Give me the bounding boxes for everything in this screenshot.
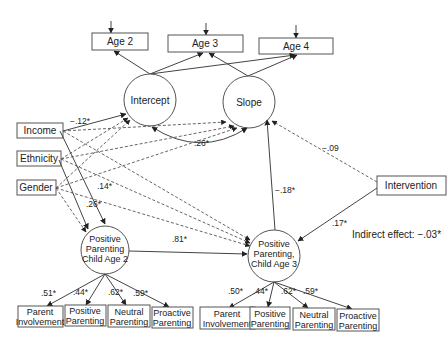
svg-text:.59*: .59* <box>133 288 149 298</box>
pp-age3-node: Positive Parenting, Child Age 3 <box>248 230 300 282</box>
svg-text:.81*: .81* <box>172 234 188 244</box>
svg-text:.62*: .62* <box>281 286 297 296</box>
svg-text:.51*: .51* <box>41 288 57 298</box>
svg-text:Parent: Parent <box>214 309 241 319</box>
income-box: Income <box>17 123 63 138</box>
svg-text:Intervention: Intervention <box>385 180 437 191</box>
svg-text:Parenting,: Parenting, <box>253 249 294 259</box>
svg-text:Proactive: Proactive <box>339 311 377 321</box>
gender-box: Gender <box>17 180 56 195</box>
intercept-node: Intercept <box>124 74 176 126</box>
path-pp2-pp3 <box>129 251 247 254</box>
indicators-age2: .51* .44* .62* .59* Parent Involvement P… <box>16 274 193 328</box>
svg-text:Involvement: Involvement <box>16 317 65 327</box>
intervention-box: Intervention <box>377 176 446 195</box>
svg-text:Parenting: Parenting <box>251 319 290 329</box>
svg-text:.62*: .62* <box>108 287 124 297</box>
path-intercept-age4 <box>150 55 295 74</box>
pp-age2-node: Positive Parenting Child Age 2 <box>81 226 129 274</box>
svg-text:Slope: Slope <box>236 97 262 108</box>
path-pp3-slope <box>267 120 275 230</box>
svg-text:Involvement: Involvement <box>203 319 252 329</box>
svg-text:Positive: Positive <box>89 234 121 244</box>
svg-text:Parent: Parent <box>27 307 54 317</box>
path-ethnicity-pp2 <box>59 160 88 229</box>
svg-text:Parenting: Parenting <box>153 318 192 328</box>
age3-box: Age 3 <box>168 35 243 52</box>
svg-text:Proactive: Proactive <box>153 308 191 318</box>
svg-text:.44*: .44* <box>253 286 269 296</box>
svg-text:.14*: .14* <box>97 181 113 191</box>
svg-text:Parenting: Parenting <box>339 321 378 331</box>
indirect-effect-label: Indirect effect: −.03* <box>352 229 441 240</box>
svg-text:Parenting: Parenting <box>295 320 334 330</box>
svg-text:Gender: Gender <box>19 182 53 193</box>
svg-text:Parenting: Parenting <box>110 317 149 327</box>
age4-box: Age 4 <box>259 38 333 54</box>
svg-text:Intercept: Intercept <box>131 95 170 106</box>
svg-text:−.09: −.09 <box>322 143 339 153</box>
indicators-age3: .50* .44* .62* .59* Parent Involvement P… <box>200 282 379 331</box>
svg-text:.17*: .17* <box>332 218 348 228</box>
svg-text:Age 2: Age 2 <box>107 36 134 47</box>
svg-text:Age 4: Age 4 <box>283 41 310 52</box>
svg-text:−.12*: −.12* <box>70 116 91 126</box>
age2-box: Age 2 <box>92 33 148 50</box>
svg-text:.26*: .26* <box>86 199 102 209</box>
svg-text:.50*: .50* <box>228 286 244 296</box>
svg-text:Neutral: Neutral <box>114 307 143 317</box>
svg-text:Parenting: Parenting <box>86 244 125 254</box>
svg-text:.44*: .44* <box>73 287 89 297</box>
path-intercept-age2 <box>114 51 150 74</box>
svg-text:−.18*: −.18* <box>275 185 296 195</box>
svg-text:Child Age 2: Child Age 2 <box>82 254 128 264</box>
svg-text:Parenting: Parenting <box>66 316 105 326</box>
svg-text:Income: Income <box>24 125 57 136</box>
sem-diagram: Age 2 Age 3 Age 4 Intercept Slope .26* I… <box>0 0 447 341</box>
svg-text:Ethnicity: Ethnicity <box>20 153 58 164</box>
svg-text:Neutral: Neutral <box>299 310 328 320</box>
svg-text:Child Age 3: Child Age 3 <box>251 259 297 269</box>
svg-text:.59*: .59* <box>303 286 319 296</box>
svg-text:Positive: Positive <box>69 306 101 316</box>
path-slope-age3 <box>209 53 248 76</box>
ethnicity-box: Ethnicity <box>17 151 61 166</box>
svg-text:Age 3: Age 3 <box>192 38 219 49</box>
svg-text:Positive: Positive <box>254 309 286 319</box>
svg-text:Positive: Positive <box>258 239 290 249</box>
svg-text:.26*: .26* <box>194 138 210 148</box>
